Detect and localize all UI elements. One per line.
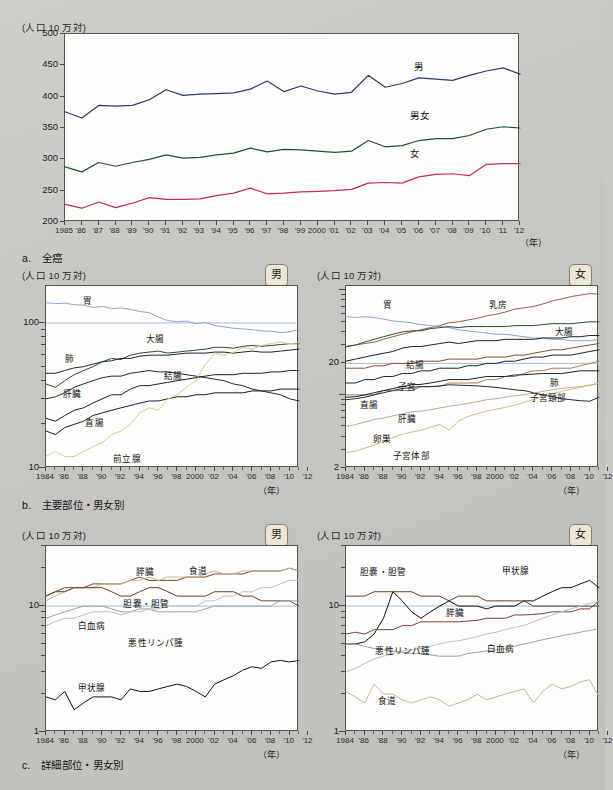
y-tick: [41, 617, 45, 618]
x-tick-label: '96: [452, 472, 462, 481]
x-tick-label: '10: [583, 472, 593, 481]
y-tick: [41, 655, 45, 656]
x-tick-label: '10: [583, 736, 593, 745]
x-tick-label: '12: [514, 226, 524, 235]
x-tick-label: '99: [295, 226, 305, 235]
x-tick: [401, 221, 402, 225]
x-tick-label: '86: [59, 472, 69, 481]
x-tick-minor: [54, 467, 55, 470]
series-label-前立腺: 前立腺: [113, 452, 141, 464]
caption-b: b. 主要部位・男女別: [22, 497, 124, 512]
x-tick-label: '89: [126, 226, 136, 235]
x-tick: [384, 221, 385, 225]
x-tick-label: '92: [415, 472, 425, 481]
x-tick: [452, 221, 453, 225]
x-tick: [82, 731, 83, 735]
x-tick-label: '08: [565, 472, 575, 481]
y-tick-label: 1: [9, 725, 39, 736]
chart-c-male-badge: 男: [265, 524, 288, 547]
series-label-直腸: 直腸: [85, 416, 103, 428]
series-line-直腸: [46, 389, 299, 434]
series-line-胆嚢・胆管: [46, 588, 299, 606]
x-tick-minor: [411, 467, 412, 470]
series-label-女: 女: [410, 146, 420, 160]
x-tick: [45, 731, 46, 735]
x-tick-label: '10: [283, 736, 293, 745]
x-tick-label: '96: [244, 226, 254, 235]
y-tick: [41, 693, 45, 694]
x-tick-label: '94: [433, 472, 443, 481]
x-tick: [551, 731, 552, 735]
series-label-直腸: 直腸: [360, 398, 378, 410]
x-tick: [468, 221, 469, 225]
series-label-胃: 胃: [83, 294, 92, 306]
x-tick-minor: [354, 467, 355, 470]
x-tick-label: '02: [508, 736, 518, 745]
x-tick: [214, 731, 215, 735]
x-tick: [476, 467, 477, 471]
chart-b-female-x-unit: （年）: [558, 484, 585, 497]
y-tick: [341, 425, 345, 426]
x-tick: [283, 221, 284, 225]
x-tick: [364, 467, 365, 471]
y-tick-label: 10: [309, 599, 339, 610]
y-tick: [341, 567, 345, 568]
x-tick: [439, 467, 440, 471]
series-label-結腸: 結腸: [406, 358, 424, 370]
x-tick: [607, 731, 608, 735]
x-tick-minor: [279, 731, 280, 734]
x-tick-label: '88: [77, 736, 87, 745]
series-label-膵臓: 膵臓: [136, 565, 154, 577]
x-tick-minor: [92, 467, 93, 470]
series-label-肝臓: 肝臓: [398, 412, 416, 424]
chart-c-male-x-unit: （年）: [258, 748, 285, 761]
x-tick-label: '96: [152, 736, 162, 745]
x-tick-label: '02: [208, 472, 218, 481]
y-tick: [60, 158, 64, 159]
x-tick-label: '88: [77, 472, 87, 481]
series-label-肺: 肺: [65, 352, 74, 364]
x-tick-minor: [223, 731, 224, 734]
x-tick: [435, 221, 436, 225]
x-tick: [64, 731, 65, 735]
y-tick: [339, 605, 345, 606]
chart-b-male-panel: (人口 10 万対) 男 10010 1984'86'88'90'92'94'9…: [0, 268, 300, 498]
y-tick: [341, 611, 345, 612]
x-tick: [176, 731, 177, 735]
x-tick-label: '12: [602, 736, 612, 745]
y-tick: [41, 336, 45, 337]
x-tick-label: '94: [133, 472, 143, 481]
x-tick: [81, 221, 82, 225]
x-tick-label: '05: [396, 226, 406, 235]
y-tick-label: 1: [309, 725, 339, 736]
y-tick: [41, 344, 45, 345]
y-tick: [60, 96, 64, 97]
x-tick-label: '98: [171, 736, 181, 745]
y-tick: [41, 380, 45, 381]
chart-c-male-panel: (人口 10 万対) 男 101 1984'86'88'90'92'94'96'…: [0, 528, 300, 758]
chart-c-female-axis-unit: (人口 10 万対): [317, 528, 381, 542]
x-tick-minor: [204, 467, 205, 470]
series-line-白血病: [46, 601, 299, 618]
series-label-白血病: 白血病: [78, 619, 106, 631]
x-tick-minor: [598, 467, 599, 470]
x-tick-label: '98: [171, 472, 181, 481]
x-tick-minor: [298, 731, 299, 734]
series-label-食道: 食道: [378, 694, 396, 706]
series-line-大腸: [46, 344, 299, 388]
x-tick-minor: [73, 731, 74, 734]
x-tick: [131, 221, 132, 225]
x-tick: [495, 467, 496, 471]
x-tick: [495, 731, 496, 735]
y-tick: [341, 545, 345, 546]
x-tick-label: '94: [433, 736, 443, 745]
y-tick: [341, 410, 345, 411]
x-tick: [382, 731, 383, 735]
x-tick-label: '02: [508, 472, 518, 481]
y-tick-label: 20: [309, 356, 339, 367]
chart-c-female-badge: 女: [569, 524, 592, 547]
x-tick-minor: [523, 731, 524, 734]
x-tick: [589, 731, 590, 735]
x-tick: [195, 467, 196, 471]
y-tick: [341, 299, 345, 300]
